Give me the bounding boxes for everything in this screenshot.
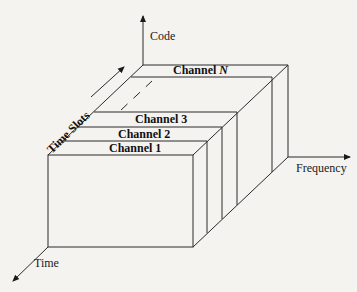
front-face <box>48 155 193 247</box>
time-slots-arrow <box>91 67 124 97</box>
channel-3-label: Channel 3 <box>135 112 187 127</box>
channel-n-label: Channel N <box>173 63 228 78</box>
channel-1-label: Channel 1 <box>109 141 161 156</box>
frequency-axis-label: Frequency <box>296 161 347 176</box>
time-axis-label: Time <box>34 256 59 271</box>
code-axis-label: Code <box>150 29 175 44</box>
channel-2-label: Channel 2 <box>118 127 170 142</box>
